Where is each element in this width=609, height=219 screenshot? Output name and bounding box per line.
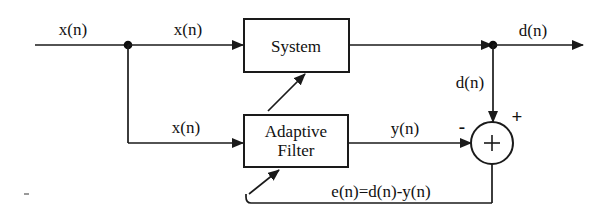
label-sign-minus: - — [459, 116, 465, 138]
adaptive-filter-block-label: Adaptive Filter — [265, 122, 327, 160]
label-output-d: d(n) — [519, 21, 547, 41]
signal-error-corner — [246, 194, 251, 203]
system-block-label: System — [271, 37, 321, 56]
label-filter-output-y: y(n) — [391, 119, 419, 139]
label-filter-input-x: x(n) — [172, 118, 200, 138]
scan-artifact-speck — [24, 193, 29, 195]
label-system-input-x: x(n) — [174, 20, 202, 40]
label-input-x: x(n) — [59, 20, 87, 40]
signal-error-into-filter — [249, 170, 279, 194]
label-branch-d: d(n) — [456, 73, 484, 93]
signal-adaptation-link — [268, 74, 305, 111]
label-error-equation: e(n)=d(n)-y(n) — [331, 182, 430, 202]
label-sign-plus: + — [512, 106, 523, 128]
block-diagram-canvas: System Adaptive Filter x(n) x(n) x(n) y(… — [0, 0, 609, 219]
